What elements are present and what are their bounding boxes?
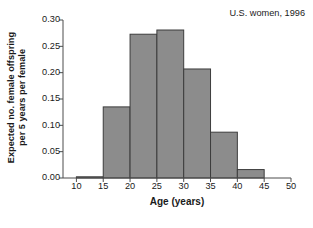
x-axis-tick-label: 30: [179, 182, 189, 191]
x-axis-tick-label: 50: [286, 182, 296, 191]
x-axis-tick-label: 15: [98, 182, 108, 191]
histogram-bar: [157, 30, 184, 178]
histogram-bar: [237, 170, 264, 178]
y-axis-tick-label: 0.30: [42, 15, 60, 24]
y-axis-tick-labels: 0.000.050.100.150.200.250.30: [34, 0, 62, 196]
y-axis-title-line-2: per 5 years per female: [18, 49, 27, 146]
histogram-bar: [211, 132, 238, 178]
histogram-bar: [184, 69, 211, 178]
y-axis-tick-label: 0.20: [42, 68, 60, 77]
y-axis-tick-label: 0.00: [42, 173, 60, 182]
y-axis-tick-label: 0.05: [42, 147, 60, 156]
x-axis-tick-label: 40: [232, 182, 242, 191]
x-axis-tick-label: 10: [71, 182, 81, 191]
y-axis-title: Expected no. female offspring per 5 year…: [0, 0, 34, 196]
histogram-bar: [130, 34, 157, 178]
y-axis-tick-label: 0.10: [42, 121, 60, 130]
y-axis-tick-label: 0.25: [42, 42, 60, 51]
chart-annotation: U.S. women, 1996: [229, 8, 305, 18]
x-axis-title: Age (years): [62, 196, 292, 207]
histogram-bar: [103, 107, 130, 178]
x-axis-tick-label: 20: [125, 182, 135, 191]
x-axis-tick-label: 25: [152, 182, 162, 191]
chart-container: Expected no. female offspring per 5 year…: [0, 0, 313, 228]
x-axis-tick-label: 45: [259, 182, 269, 191]
y-axis-tick-label: 0.15: [42, 94, 60, 103]
y-axis-title-line-1: Expected no. female offspring: [7, 32, 16, 163]
x-axis-tick-label: 35: [205, 182, 215, 191]
